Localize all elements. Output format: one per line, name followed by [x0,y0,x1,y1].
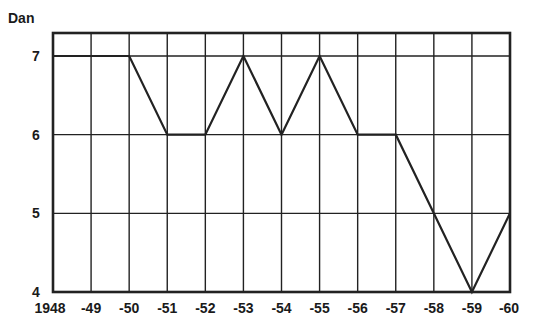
x-tick-label: 1948 [34,300,65,316]
x-tick-label: -51 [157,300,177,316]
x-tick-label: -55 [309,300,329,316]
y-tick-labels: 4567 [32,48,40,300]
x-tick-label: -57 [386,300,406,316]
x-tick-label: -52 [195,300,215,316]
grid-lines [53,33,510,292]
x-tick-label: -53 [233,300,253,316]
x-tick-label: -56 [348,300,368,316]
x-tick-label: -54 [271,300,291,316]
x-tick-label: -59 [462,300,482,316]
y-tick-label: 6 [32,127,40,143]
y-tick-label: 7 [32,48,40,64]
y-axis-label: Dan [8,10,34,26]
x-tick-labels: 1948-49-50-51-52-53-54-55-56-57-58-59-60 [34,300,519,316]
y-tick-label: 4 [32,284,40,300]
x-tick-label: -49 [81,300,101,316]
x-tick-label: -58 [424,300,444,316]
dan-rank-line-chart: Dan 4567 1948-49-50-51-52-53-54-55-56-57… [0,0,540,333]
y-tick-label: 5 [32,205,40,221]
x-tick-label: -50 [119,300,139,316]
x-tick-label: -60 [499,300,519,316]
